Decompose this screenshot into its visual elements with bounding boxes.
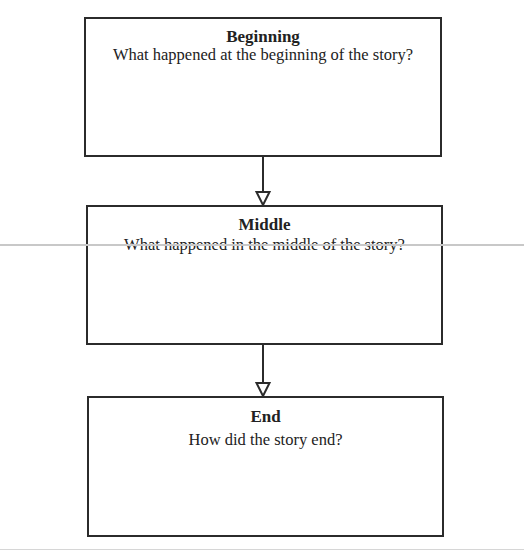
- page-rule-line-bottom: [0, 549, 524, 550]
- box-end: End How did the story end?: [87, 396, 444, 537]
- page-rule-line: [0, 244, 524, 246]
- box-title-end: End: [89, 408, 442, 426]
- box-title-middle: Middle: [88, 216, 441, 234]
- box-question-end: How did the story end?: [89, 431, 442, 449]
- box-beginning: Beginning What happened at the beginning…: [84, 17, 442, 157]
- box-title-beginning: Beginning: [86, 28, 440, 46]
- box-middle: Middle What happened in the middle of th…: [86, 205, 443, 345]
- down-arrow-icon: [254, 344, 272, 397]
- box-question-beginning: What happened at the beginning of the st…: [86, 46, 440, 64]
- down-arrow-icon: [254, 156, 272, 206]
